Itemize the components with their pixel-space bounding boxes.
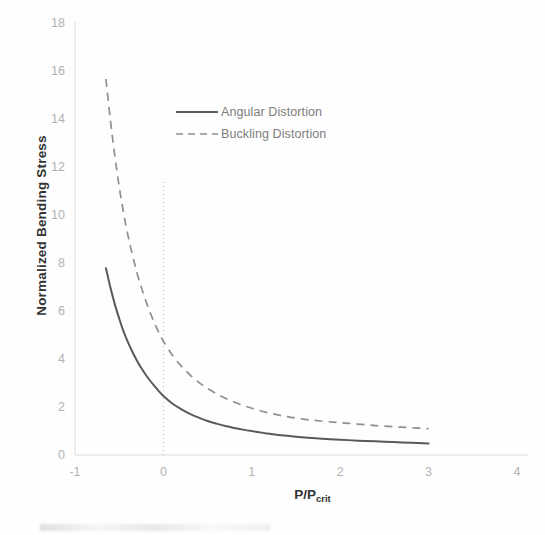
x-tick-label: 2 bbox=[327, 466, 353, 479]
x-tick-label: 0 bbox=[150, 466, 176, 479]
x-tick-label: -1 bbox=[62, 466, 88, 479]
x-tick-label: 4 bbox=[504, 466, 530, 479]
y-axis-title: Normalized Bending Stress bbox=[34, 101, 49, 351]
y-tick-label: 0 bbox=[39, 449, 65, 462]
x-tick-label: 3 bbox=[416, 466, 442, 479]
x-axis-title: P/Pcrit bbox=[0, 487, 545, 502]
legend-item-angular-distortion: Angular Distortion bbox=[176, 101, 326, 123]
x-tick-label: 1 bbox=[239, 466, 265, 479]
legend-item-buckling-distortion: Buckling Distortion bbox=[176, 123, 326, 145]
y-tick-label: 16 bbox=[39, 65, 65, 78]
chart-figure: 024681012141618 -101234 Normalized Bendi… bbox=[0, 0, 545, 535]
legend-label-angular-distortion: Angular Distortion bbox=[221, 105, 322, 119]
scan-artifact-smudge bbox=[40, 524, 270, 531]
y-tick-label: 2 bbox=[39, 401, 65, 414]
legend-swatch-solid bbox=[176, 106, 218, 118]
y-tick-label: 18 bbox=[39, 17, 65, 30]
chart-legend: Angular Distortion Buckling Distortion bbox=[176, 101, 326, 145]
y-tick-label: 4 bbox=[39, 353, 65, 366]
series-line-angular-distortion bbox=[106, 268, 429, 443]
x-axis-title-subscript: crit bbox=[316, 493, 331, 504]
x-axis-title-main: P/P bbox=[294, 487, 316, 502]
legend-swatch-dashed bbox=[176, 128, 218, 140]
plot-canvas bbox=[0, 0, 545, 535]
legend-label-buckling-distortion: Buckling Distortion bbox=[221, 127, 326, 141]
